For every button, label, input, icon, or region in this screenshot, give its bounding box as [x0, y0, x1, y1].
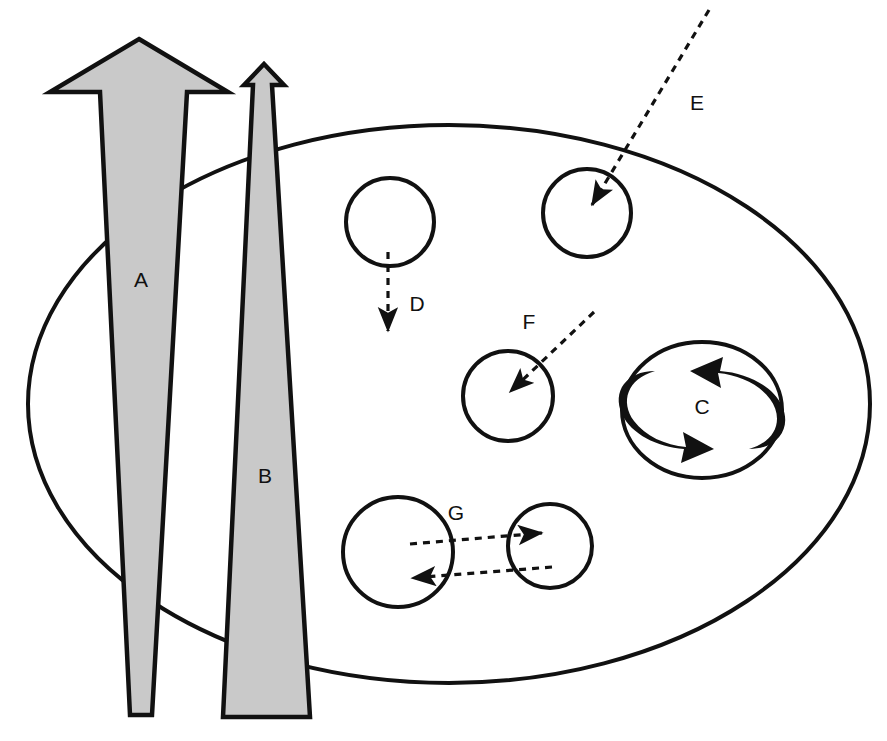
nodes-group [343, 169, 782, 607]
label-g: G [448, 501, 464, 524]
node-circle-e[interactable] [543, 169, 631, 257]
label-b: B [258, 464, 272, 487]
node-circle-f[interactable] [463, 351, 553, 441]
node-circle-g-left[interactable] [343, 497, 453, 607]
dashed-flows-group [388, 10, 709, 578]
labels-group: A B C D E F G [134, 91, 710, 524]
label-d: D [409, 292, 424, 315]
diagram-canvas: A B C D E F G [0, 0, 887, 741]
block-arrow-a[interactable] [50, 39, 228, 715]
diagram-svg: A B C D E F G [0, 0, 887, 741]
label-e: E [690, 91, 704, 114]
label-f: F [523, 310, 536, 333]
node-circle-d[interactable] [346, 178, 434, 266]
node-circle-g-right[interactable] [508, 504, 592, 588]
label-c: C [694, 395, 709, 418]
block-arrows-group [50, 39, 310, 717]
label-a: A [134, 268, 148, 291]
